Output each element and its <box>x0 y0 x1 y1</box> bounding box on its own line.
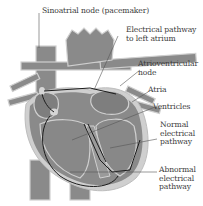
label-line: to left atrium <box>126 35 196 44</box>
heart-conduction-diagram: Sinoatrial node (pacemaker) Electrical p… <box>0 0 203 206</box>
pulmonary-vein-1 <box>10 73 40 91</box>
label-line: pathway <box>159 183 196 192</box>
label-atria: Atria <box>148 86 167 95</box>
aortic-arch <box>66 28 114 66</box>
label-left-atrium-pathway: Electrical pathway to left atrium <box>126 26 196 43</box>
label-ventricles: Ventricles <box>153 103 190 112</box>
label-line: pathway <box>160 138 195 147</box>
label-abnormal-pathway: Abnormal electrical pathway <box>159 166 196 192</box>
label-normal-pathway: Normal electrical pathway <box>160 121 195 147</box>
left-atrium <box>91 91 129 114</box>
label-sa-node: Sinoatrial node (pacemaker) <box>42 7 149 16</box>
label-av-node: Atrioventricular node <box>138 60 198 77</box>
label-line: node <box>138 69 198 78</box>
